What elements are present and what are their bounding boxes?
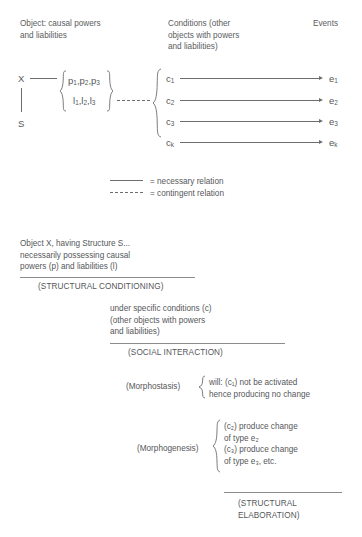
contingent-link-dashed bbox=[117, 100, 150, 101]
legend-solid-line bbox=[110, 180, 143, 181]
node-s: S bbox=[18, 117, 24, 130]
header-conditions: Conditions (other objects with powers an… bbox=[168, 18, 288, 53]
legend-label-necessary: = necessary relation bbox=[150, 176, 224, 188]
morphostasis-label: (Morphostasis) bbox=[126, 381, 180, 393]
morphogenesis-body: (c₂) produce change of type e₂ (c₃) prod… bbox=[224, 421, 359, 468]
structural-elaboration-caption: (STRUCTURAL ELABORATION) bbox=[238, 498, 362, 521]
condition-label: ck bbox=[166, 136, 174, 150]
x-connector-line bbox=[30, 78, 57, 79]
morphogenesis-label: (Morphogenesis) bbox=[137, 443, 198, 455]
legend-dashed-line bbox=[110, 192, 143, 193]
relation-arrow-head bbox=[319, 98, 323, 102]
powers-brace-left bbox=[59, 70, 67, 112]
relation-arrow-line bbox=[180, 121, 320, 122]
structural-conditioning-caption: (STRUCTURAL CONDITIONING) bbox=[38, 281, 248, 293]
relation-arrow-head bbox=[319, 76, 323, 80]
event-label: e1 bbox=[329, 72, 338, 86]
condition-label: c1 bbox=[166, 72, 174, 86]
structural-elaboration-rule bbox=[224, 492, 342, 493]
social-interaction-rule bbox=[110, 343, 285, 344]
event-label: ek bbox=[329, 136, 338, 150]
relation-arrow-line bbox=[180, 78, 320, 79]
liabilities-list: l1,l2,l3 bbox=[73, 94, 95, 108]
morphostasis-body: will: (c₁) not be activated hence produc… bbox=[209, 377, 354, 400]
event-label: e3 bbox=[329, 115, 338, 129]
social-interaction-caption: (SOCIAL INTERACTION) bbox=[128, 347, 328, 359]
social-interaction-body: under specific conditions (c) (other obj… bbox=[110, 303, 300, 338]
morphostasis-brace bbox=[198, 375, 206, 399]
relation-arrow-head bbox=[319, 119, 323, 123]
structural-conditioning-rule bbox=[20, 277, 195, 278]
event-label: e2 bbox=[329, 94, 338, 108]
relation-arrow-line bbox=[180, 142, 320, 143]
conditions-brace bbox=[152, 68, 162, 138]
powers-brace-right bbox=[106, 70, 114, 112]
header-events: Events bbox=[313, 18, 362, 30]
header-object: Object: causal powers and liabilities bbox=[20, 18, 170, 41]
legend-label-contingent: = contingent relation bbox=[150, 188, 224, 200]
structural-conditioning-body: Object X, having Structure S... necessar… bbox=[20, 238, 210, 273]
relation-arrow-head bbox=[319, 140, 323, 144]
node-x: X bbox=[18, 72, 24, 85]
condition-label: c3 bbox=[166, 115, 174, 129]
relation-arrow-line bbox=[180, 100, 320, 101]
morphogenesis-brace bbox=[212, 419, 221, 473]
x-s-vertical-line bbox=[21, 88, 22, 112]
condition-label: c2 bbox=[166, 94, 174, 108]
powers-list: p1,p2,p3 bbox=[68, 74, 100, 88]
